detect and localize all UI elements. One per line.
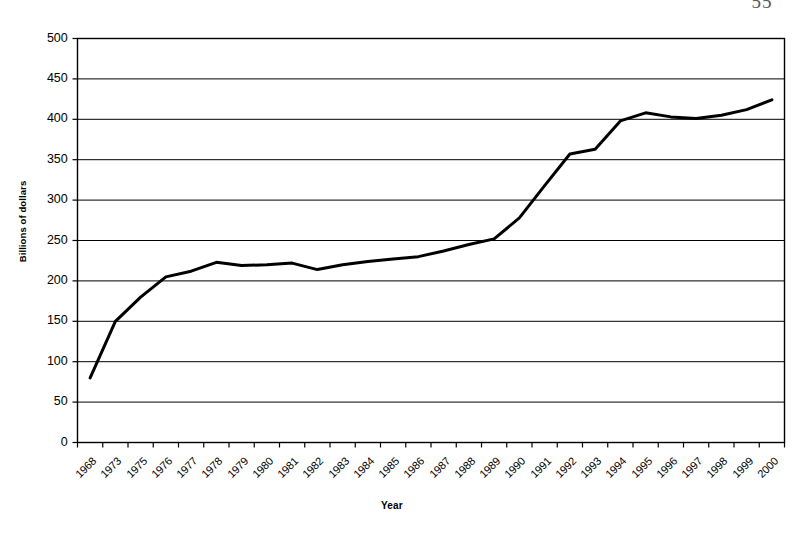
y-tick-label: 0 xyxy=(22,435,68,449)
y-tick-label: 350 xyxy=(22,152,68,166)
y-axis-tick-marks xyxy=(73,39,78,443)
y-tick-label: 300 xyxy=(22,192,68,206)
y-tick-label: 500 xyxy=(22,31,68,45)
data-series-line xyxy=(90,100,772,378)
x-axis-tick-marks xyxy=(78,443,785,448)
y-tick-label: 50 xyxy=(22,394,68,408)
y-tick-label: 400 xyxy=(22,111,68,125)
y-axis-title: Billions of dollars xyxy=(17,162,28,282)
y-tick-label: 100 xyxy=(22,354,68,368)
y-tick-label: 200 xyxy=(22,273,68,287)
chart-plot-area xyxy=(0,0,808,537)
y-tick-label: 250 xyxy=(22,233,68,247)
line-chart-figure: Billions of dollars Year 500450400350300… xyxy=(0,0,808,537)
y-tick-label: 150 xyxy=(22,313,68,327)
y-tick-label: 450 xyxy=(22,71,68,85)
x-axis-title: Year xyxy=(381,500,403,511)
horizontal-gridlines xyxy=(78,79,785,402)
